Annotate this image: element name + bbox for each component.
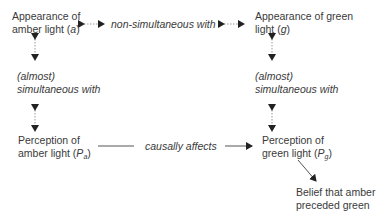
node-amber-appearance: Appearance of amber light (a) — [12, 10, 80, 35]
relation-right-simultaneous: (almost) simultaneous with — [255, 70, 338, 95]
relation-left-simultaneous: (almost) simultaneous with — [17, 70, 100, 95]
node-amber-perception: Perception of amber light (Pa) — [18, 134, 91, 163]
node-text: amber light (a) — [12, 23, 80, 36]
relation-non-simultaneous: non-simultaneous with — [111, 18, 215, 31]
node-text: Appearance of green — [255, 10, 353, 23]
relation-causally-affects: causally affects — [145, 140, 217, 153]
node-green-perception: Perception of green light (Pg) — [262, 134, 332, 163]
node-text: Appearance of — [12, 10, 80, 23]
node-belief: Belief that amber preceded green — [296, 186, 375, 211]
node-green-appearance: Appearance of green light (g) — [255, 10, 353, 35]
node-text: light (g) — [255, 23, 353, 36]
